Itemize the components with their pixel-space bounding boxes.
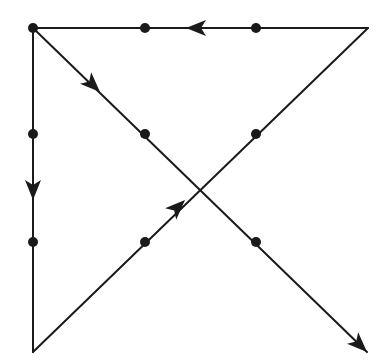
dot-r1c3 bbox=[251, 23, 261, 33]
dot-r2c1 bbox=[28, 129, 38, 139]
dot-r3c2 bbox=[140, 237, 150, 247]
dot-r1c1 bbox=[28, 23, 38, 33]
nine-dot-diagram bbox=[0, 0, 389, 362]
dot-r1c2 bbox=[140, 23, 150, 33]
dot-r3c1 bbox=[28, 237, 38, 247]
dot-r2c2 bbox=[140, 129, 150, 139]
arrow-up-right-icon bbox=[165, 194, 191, 219]
dot-r2c3 bbox=[251, 129, 261, 139]
dot-r3c3 bbox=[251, 237, 261, 247]
path-segments bbox=[33, 28, 368, 352]
